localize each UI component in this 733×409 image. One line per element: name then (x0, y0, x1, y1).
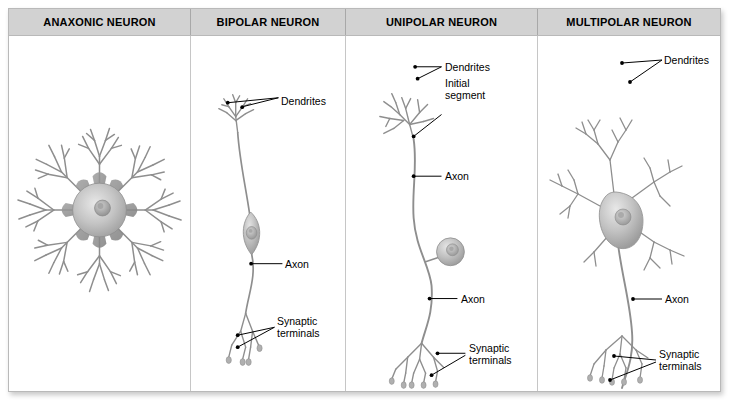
column-header-row: ANAXONIC NEURON BIPOLAR NEURON UNIPOLAR … (9, 9, 720, 36)
header-anaxonic-neuron: ANAXONIC NEURON (9, 9, 191, 35)
panel-anaxonic-neuron (9, 36, 191, 391)
label-bipolar-synaptic-terminals-line2: terminals (277, 327, 320, 339)
diagram-body-row: Dendrites Axon Synaptic terminals (9, 36, 720, 391)
label-unipolar-initial-segment-line2: segment (445, 89, 485, 101)
panel-bipolar-neuron: Dendrites Axon Synaptic terminals (191, 36, 346, 391)
figure-page: ANAXONIC NEURON BIPOLAR NEURON UNIPOLAR … (0, 0, 733, 409)
header-bipolar-neuron: BIPOLAR NEURON (191, 9, 346, 35)
label-bipolar-dendrites: Dendrites (281, 95, 326, 107)
label-unipolar-axon-upper: Axon (445, 170, 469, 182)
label-multipolar-axon: Axon (665, 293, 689, 305)
label-bipolar-axon: Axon (285, 258, 309, 270)
unipolar-neuron-illustration (346, 36, 537, 391)
header-multipolar-neuron: MULTIPOLAR NEURON (538, 9, 720, 35)
label-multipolar-synaptic-terminals-line2: terminals (659, 360, 702, 372)
bipolar-neuron-illustration (191, 36, 345, 391)
label-unipolar-initial-segment-line1: Initial (445, 77, 470, 89)
multipolar-neuron-illustration (538, 36, 720, 391)
label-unipolar-synaptic-terminals-line1: Synaptic (469, 342, 509, 354)
label-bipolar-synaptic-terminals-line1: Synaptic (277, 315, 317, 327)
label-unipolar-axon-lower: Axon (461, 293, 485, 305)
label-multipolar-synaptic-terminals-line1: Synaptic (659, 348, 699, 360)
label-unipolar-synaptic-terminals-line2: terminals (469, 354, 512, 366)
anaxonic-neuron-illustration (9, 36, 190, 391)
header-unipolar-neuron: UNIPOLAR NEURON (346, 9, 538, 35)
label-unipolar-dendrites: Dendrites (445, 61, 490, 73)
panel-unipolar-neuron: Dendrites Initial segment Axon Axon Syna… (346, 36, 538, 391)
neuron-figure-frame: ANAXONIC NEURON BIPOLAR NEURON UNIPOLAR … (8, 8, 721, 392)
label-multipolar-dendrites: Dendrites (664, 54, 709, 66)
panel-multipolar-neuron: Dendrites Axon Synaptic terminals (538, 36, 720, 391)
